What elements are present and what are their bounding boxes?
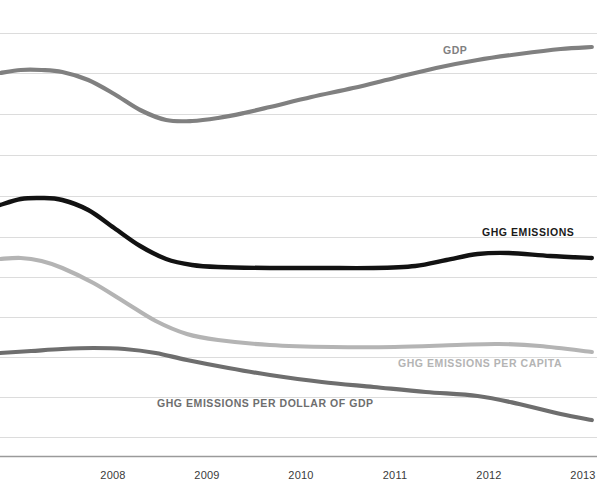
series-label-gdp: GDP <box>443 44 467 56</box>
series-line-gdp <box>0 47 592 121</box>
x-axis-tick-2013: 2013 <box>570 469 595 481</box>
x-axis-tick-2011: 2011 <box>383 469 407 481</box>
series-label-ghg-emissions-per-capita: GHG EMISSIONS PER CAPITA <box>398 357 562 369</box>
series-line-ghg-emissions-per-capita <box>0 258 592 352</box>
chart-container: 200820092010201120122013 GDPGHG EMISSION… <box>0 0 614 500</box>
x-axis-tick-2012: 2012 <box>476 469 501 481</box>
line-chart-plot <box>0 0 614 500</box>
x-axis-tick-2008: 2008 <box>100 469 125 481</box>
series-label-ghg-emissions: GHG EMISSIONS <box>482 226 574 238</box>
x-axis-tick-2009: 2009 <box>194 469 219 481</box>
x-axis-tick-2010: 2010 <box>288 469 313 481</box>
series-label-ghg-emissions-per-dollar-of-gdp: GHG EMISSIONS PER DOLLAR OF GDP <box>157 397 374 409</box>
